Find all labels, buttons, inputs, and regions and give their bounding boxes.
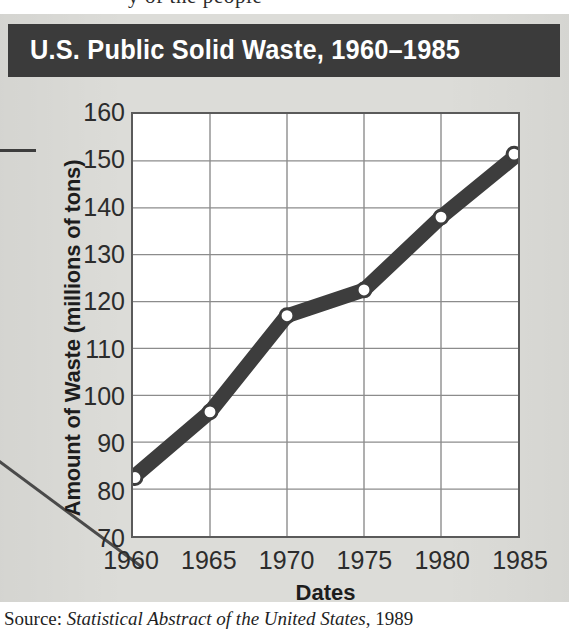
data-point-1980	[434, 210, 448, 224]
data-point-1985	[507, 147, 518, 161]
plot-area	[131, 112, 520, 538]
data-series-line	[133, 114, 518, 536]
x-axis-title: Dates	[131, 580, 520, 606]
data-point-1970	[280, 309, 294, 323]
x-tick-1960: 1960	[91, 546, 171, 575]
x-tick-1970: 1970	[247, 546, 327, 575]
data-point-1965	[203, 405, 217, 419]
clipped-body-text: y of the people	[128, 0, 262, 9]
x-tick-1985: 1985	[480, 546, 560, 575]
x-axis-tick-labels: 1960 1965 1970 1975 1980 1985	[131, 546, 520, 580]
clipped-body-text-above: y of the people	[0, 0, 569, 14]
source-prefix: Source:	[4, 608, 62, 629]
x-tick-1965: 1965	[169, 546, 249, 575]
y-axis-title: Amount of Waste (millions of tons)	[60, 153, 86, 523]
chart-title: U.S. Public Solid Waste, 1960–1985	[30, 35, 460, 66]
y-tick-160: 160	[63, 98, 125, 127]
data-point-1960	[133, 471, 142, 485]
source-note: Source: Statistical Abstract of the Unit…	[4, 608, 413, 630]
x-tick-1975: 1975	[324, 546, 404, 575]
source-year: , 1989	[366, 608, 414, 629]
x-tick-1980: 1980	[402, 546, 482, 575]
figure-page: y of the people U.S. Public Solid Waste,…	[0, 0, 569, 643]
chart-title-bar: U.S. Public Solid Waste, 1960–1985	[8, 24, 560, 77]
data-point-1975	[357, 283, 371, 297]
leader-line-horizontal	[0, 149, 36, 152]
source-publication-title: Statistical Abstract of the United State…	[67, 608, 366, 629]
